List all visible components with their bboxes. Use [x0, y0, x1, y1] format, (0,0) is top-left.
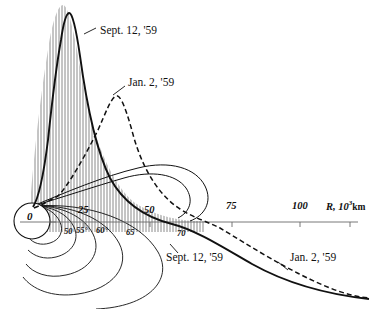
- angle-label-50: 50: [64, 227, 73, 236]
- axis-tick-25: 25: [78, 205, 89, 216]
- angle-label-55: 55°: [76, 226, 88, 235]
- axis-tick-50: 50: [144, 205, 155, 216]
- magnetosphere-figure: Sept. 12, '59 Jan. 2, '59 Sept. 12, '59 …: [0, 0, 371, 309]
- angle-label-60: 60°: [96, 226, 108, 235]
- axis-tick-100: 100: [292, 201, 308, 212]
- axis-tick-75: 75: [226, 201, 237, 212]
- leader-upper-jan: [113, 86, 125, 95]
- callout-upper-jan: Jan. 2, '59: [128, 77, 174, 89]
- axis-ticks: [84, 222, 350, 227]
- callout-lower-sept: Sept. 12, '59: [166, 252, 223, 264]
- axis-unit-r: R, 10: [326, 201, 349, 212]
- angle-label-70: 70: [177, 229, 186, 238]
- leader-upper-sept: [84, 28, 96, 34]
- angle-label-65: 65: [126, 228, 135, 237]
- callout-upper-sept: Sept. 12, '59: [100, 25, 157, 37]
- axis-origin-label: 0: [27, 211, 33, 222]
- callout-leaders: [84, 28, 288, 270]
- callout-lower-jan: Jan. 2, '59: [290, 252, 336, 264]
- axis-unit-km: km: [352, 202, 365, 212]
- leader-lower-jan: [278, 262, 288, 270]
- axis-unit-label: R, 103km: [326, 200, 365, 212]
